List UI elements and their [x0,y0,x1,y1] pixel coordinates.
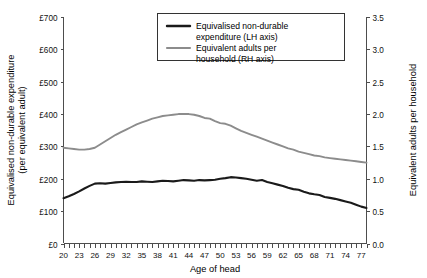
y-axis-left-ticks: £0£100£200£300£400£500£600£700 [39,14,63,250]
y-tick-label-left: £500 [39,79,58,88]
x-tick-label: 56 [247,251,256,260]
series-lines [64,114,367,208]
x-tick-label: 26 [90,251,99,260]
x-tick-label: 29 [106,251,115,260]
y-tick-label-left: £300 [39,143,58,152]
line-chart: £0£100£200£300£400£500£600£700 0.00.51.0… [0,0,427,278]
y-tick-label-right: 0.0 [373,241,385,250]
y-tick-label-left: £0 [48,241,58,250]
y-tick-label-left: £400 [39,111,58,120]
x-tick-label: 77 [357,251,366,260]
x-tick-label: 23 [75,251,84,260]
x-tick-label: 65 [294,251,303,260]
y-tick-label-right: 1.5 [373,143,385,152]
legend-label-expenditure-line2: expenditure (LH axis) [196,32,278,42]
y-axis-right-title: Equivalent adults per household [408,64,418,196]
legend-label-adults-line1: Equivalent adults per [196,43,276,53]
y-tick-label-left: £200 [39,176,58,185]
y-tick-label-right: 1.0 [373,176,385,185]
x-axis-title: Age of head [190,264,240,274]
y-axis-left-title-line1: Equivalised non-durable expenditure [6,55,16,206]
x-tick-label: 41 [169,251,178,260]
chart-legend: Equivalised non-durable expenditure (LH … [158,14,345,65]
y-axis-right-ticks: 0.00.51.01.52.02.53.03.5 [367,14,385,250]
y-tick-label-right: 0.5 [373,208,385,217]
x-tick-label: 32 [122,251,131,260]
chart-container: £0£100£200£300£400£500£600£700 0.00.51.0… [0,0,427,278]
x-tick-label: 59 [263,251,272,260]
y-tick-label-right: 3.5 [373,14,385,23]
y-tick-label-left: £100 [39,208,58,217]
x-axis-ticks: 2023262932353841444750535659626568717477 [59,244,367,260]
x-tick-label: 68 [310,251,319,260]
series-line-adults-per-household [64,114,367,163]
y-tick-label-left: £700 [39,14,58,23]
y-tick-label-left: £600 [39,46,58,55]
legend-label-adults-line2: household (RH axis) [196,54,274,64]
x-tick-label: 62 [278,251,287,260]
x-tick-label: 50 [216,251,225,260]
y-axis-left-title-line2: (per equivalent adult) [17,86,27,173]
y-tick-label-right: 2.5 [373,79,385,88]
legend-label-expenditure-line1: Equivalised non-durable [196,21,288,31]
x-tick-label: 47 [200,251,209,260]
series-line-expenditure [64,177,367,208]
y-tick-label-right: 3.0 [373,46,385,55]
x-tick-label: 71 [325,251,334,260]
y-tick-label-right: 2.0 [373,111,385,120]
x-tick-label: 20 [59,251,68,260]
x-tick-label: 74 [341,251,350,260]
x-tick-label: 44 [184,251,193,260]
x-tick-label: 53 [231,251,240,260]
x-tick-label: 35 [137,251,146,260]
x-tick-label: 38 [153,251,162,260]
